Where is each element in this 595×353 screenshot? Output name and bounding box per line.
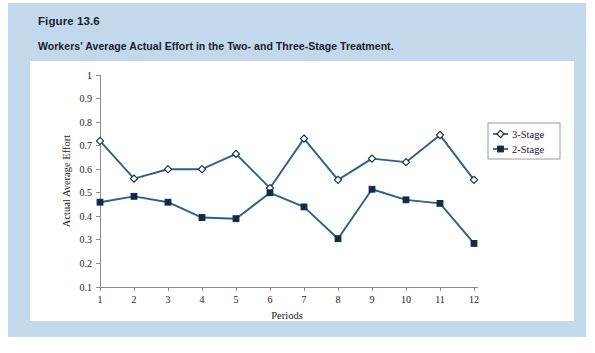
series-line-2-stage: [100, 189, 474, 243]
legend-marker-2-stage: [498, 146, 504, 152]
line-chart: 0.10.20.30.40.50.60.70.80.91123456789101…: [30, 61, 574, 321]
x-tick-label: 8: [336, 294, 341, 305]
x-tick-label: 10: [401, 294, 411, 305]
data-point-3-stage-4: [198, 166, 205, 173]
data-point-2-stage-12: [471, 241, 477, 247]
x-tick-label: 5: [234, 294, 239, 305]
data-point-2-stage-3: [165, 199, 171, 205]
figure-screenshot: Figure 13.6 Workers' Average Actual Effo…: [0, 0, 595, 353]
y-tick-label: 0.3: [80, 234, 93, 245]
y-tick-label: 0.5: [80, 187, 93, 198]
data-point-2-stage-6: [267, 190, 273, 196]
data-point-2-stage-7: [301, 204, 307, 210]
x-tick-label: 1: [98, 294, 103, 305]
x-axis-title: Periods: [271, 310, 303, 321]
y-tick-label: 0.4: [80, 211, 93, 222]
series-line-3-stage: [100, 135, 474, 188]
legend-label-3-stage: 3-Stage: [512, 129, 544, 140]
x-tick-label: 6: [268, 294, 273, 305]
data-point-2-stage-1: [97, 199, 103, 205]
x-tick-label: 3: [166, 294, 171, 305]
y-tick-label: 0.6: [80, 164, 93, 175]
data-point-2-stage-4: [199, 215, 205, 221]
figure-card: Figure 13.6 Workers' Average Actual Effo…: [8, 3, 586, 337]
y-tick-label: 0.1: [80, 282, 93, 293]
figure-number: Figure 13.6: [38, 15, 100, 27]
y-tick-label: 0.9: [80, 93, 93, 104]
x-tick-label: 4: [200, 294, 205, 305]
chart-panel: 0.10.20.30.40.50.60.70.80.91123456789101…: [30, 61, 574, 321]
y-tick-label: 0.8: [80, 117, 93, 128]
data-point-2-stage-2: [131, 193, 137, 199]
data-point-2-stage-5: [233, 216, 239, 222]
y-tick-label: 0.7: [80, 140, 93, 151]
x-tick-label: 12: [469, 294, 479, 305]
data-point-3-stage-3: [164, 166, 171, 173]
figure-title: Workers' Average Actual Effort in the Tw…: [38, 40, 394, 52]
y-tick-label: 0.2: [80, 258, 93, 269]
data-point-2-stage-10: [403, 197, 409, 203]
data-point-2-stage-8: [335, 236, 341, 242]
data-point-2-stage-11: [437, 200, 443, 206]
legend-label-2-stage: 2-Stage: [512, 144, 544, 155]
x-tick-label: 2: [132, 294, 137, 305]
x-tick-label: 11: [435, 294, 445, 305]
y-axis-title: Actual Average Effort: [61, 135, 72, 227]
data-point-2-stage-9: [369, 186, 375, 192]
x-tick-label: 7: [302, 294, 307, 305]
x-tick-label: 9: [370, 294, 375, 305]
y-tick-label: 1: [87, 70, 92, 81]
